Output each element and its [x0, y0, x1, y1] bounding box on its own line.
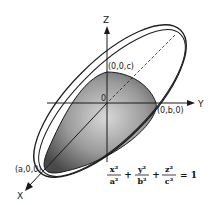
z-axis-label: Z [103, 15, 109, 25]
svg-text:+: + [124, 170, 132, 180]
z-axis-arrow-icon [104, 26, 110, 34]
svg-text:a²: a² [110, 176, 119, 186]
ellipsoid-equation: x² a² + y² b² + z² c² = 1 [107, 164, 197, 186]
ellipsoid-octant-shaded [44, 72, 156, 173]
ellipsoid-diagram: Z Y X 0 (0,0,c) (0,b,0) (a,0,0) x² a² + … [0, 0, 214, 205]
z-intercept-label: (0,0,c) [108, 62, 134, 71]
y-axis-label: Y [197, 99, 204, 109]
y-intercept-label: (0,b,0) [157, 106, 184, 115]
svg-text:= 1: = 1 [180, 170, 197, 180]
svg-text:z²: z² [165, 164, 174, 174]
x-intercept-label: (a,0,0) [15, 165, 41, 174]
origin-label: 0 [101, 94, 106, 103]
x-axis-label: X [17, 191, 23, 201]
svg-text:x²: x² [110, 164, 119, 174]
svg-text:y²: y² [137, 164, 147, 174]
svg-text:+: + [152, 170, 160, 180]
y-axis-arrow-icon [187, 100, 195, 106]
svg-text:b²: b² [137, 176, 147, 186]
svg-text:c²: c² [165, 176, 174, 186]
